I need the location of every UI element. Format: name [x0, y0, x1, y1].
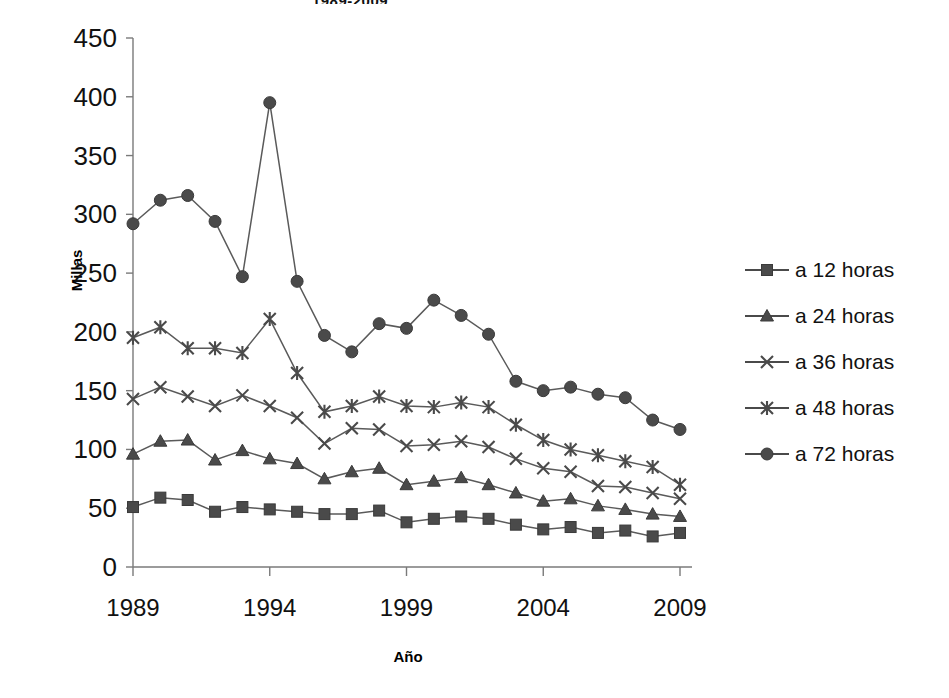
legend-label: a 12 horas [795, 258, 894, 282]
data-point-marker [128, 502, 139, 513]
legend-label: a 36 horas [795, 350, 894, 374]
data-point-marker [674, 478, 686, 492]
data-point-marker [181, 434, 194, 446]
data-point-marker [537, 385, 549, 397]
data-point-marker [537, 433, 549, 447]
data-point-marker [455, 309, 467, 321]
data-point-marker [209, 454, 222, 466]
data-point-marker [346, 399, 358, 413]
data-point-marker [291, 275, 303, 287]
data-point-marker [647, 487, 659, 499]
data-point-marker [373, 390, 385, 404]
legend-item-a-72-horas[interactable]: a 72 horas [745, 431, 945, 477]
data-point-marker [182, 391, 194, 403]
legend-item-a-12-horas[interactable]: a 12 horas [745, 247, 945, 293]
data-point-marker [592, 388, 604, 400]
series-a-72-horas [127, 97, 686, 436]
data-point-marker [401, 322, 413, 334]
data-point-marker [236, 389, 248, 401]
data-point-marker [236, 271, 248, 283]
data-point-marker [318, 438, 330, 450]
data-point-marker [346, 346, 358, 358]
data-point-marker [592, 527, 603, 538]
legend-label: a 72 horas [795, 442, 894, 466]
data-point-marker [127, 331, 139, 345]
data-point-marker [510, 418, 522, 432]
data-point-marker [483, 441, 495, 453]
data-point-marker [510, 453, 522, 465]
legend-marker-square-icon [745, 260, 789, 280]
data-point-marker [237, 502, 248, 513]
data-point-marker [538, 524, 549, 535]
legend-label: a 24 horas [795, 304, 894, 328]
data-point-marker [154, 194, 166, 206]
data-point-marker [209, 400, 221, 412]
data-point-marker [373, 318, 385, 330]
data-point-marker [346, 509, 357, 520]
legend-label: a 48 horas [795, 396, 894, 420]
data-point-marker [292, 506, 303, 517]
data-point-marker [647, 531, 658, 542]
data-point-marker [209, 215, 221, 227]
chart-legend: a 12 horasa 24 horasa 36 horasa 48 horas… [745, 247, 945, 477]
legend-item-a-36-horas[interactable]: a 36 horas [745, 339, 945, 385]
data-point-marker [154, 320, 166, 334]
data-point-marker [619, 454, 631, 468]
data-point-marker [264, 400, 276, 412]
data-point-marker [565, 442, 577, 456]
data-point-marker [619, 392, 631, 404]
data-point-marker [155, 492, 166, 503]
data-point-marker [761, 448, 773, 460]
legend-marker-circle-icon [745, 444, 789, 464]
line-chart: 1989-2009 Millas Año 0501001502002503003… [0, 0, 949, 698]
data-point-marker [456, 511, 467, 522]
data-point-marker [761, 310, 774, 322]
data-point-marker [674, 423, 686, 435]
data-point-marker [565, 522, 576, 533]
data-point-marker [154, 381, 166, 393]
data-point-marker [374, 505, 385, 516]
data-point-marker [182, 190, 194, 202]
data-point-marker [291, 412, 303, 424]
legend-marker-asterisk-icon [745, 398, 789, 418]
legend-marker-triangle-icon [745, 306, 789, 326]
data-point-marker [318, 329, 330, 341]
data-point-marker [401, 517, 412, 528]
data-point-marker [483, 513, 494, 524]
data-point-marker [291, 366, 303, 380]
data-point-marker [564, 492, 577, 504]
data-point-marker [319, 509, 330, 520]
data-point-marker [182, 494, 193, 505]
series-a-12-horas [128, 492, 686, 542]
data-point-marker [210, 506, 221, 517]
data-point-marker [762, 265, 773, 276]
data-point-marker [592, 448, 604, 462]
data-point-marker [647, 460, 659, 474]
data-point-marker [761, 401, 773, 415]
data-point-marker [373, 462, 386, 474]
data-point-marker [674, 493, 686, 505]
data-point-marker [428, 513, 439, 524]
data-point-marker [428, 294, 440, 306]
data-point-marker [620, 525, 631, 536]
data-point-marker [264, 504, 275, 515]
data-point-marker [236, 444, 249, 456]
data-point-marker [510, 375, 522, 387]
data-point-marker [761, 356, 773, 368]
data-point-marker [264, 312, 276, 326]
data-point-marker [264, 97, 276, 109]
data-point-marker [127, 218, 139, 230]
data-point-marker [565, 381, 577, 393]
data-point-marker [483, 328, 495, 340]
data-point-marker [318, 405, 330, 419]
data-point-marker [647, 414, 659, 426]
data-point-marker [675, 527, 686, 538]
legend-marker-x-icon [745, 352, 789, 372]
legend-item-a-24-horas[interactable]: a 24 horas [745, 293, 945, 339]
series-line [133, 103, 680, 430]
data-point-marker [455, 471, 468, 483]
legend-item-a-48-horas[interactable]: a 48 horas [745, 385, 945, 431]
data-point-marker [510, 519, 521, 530]
